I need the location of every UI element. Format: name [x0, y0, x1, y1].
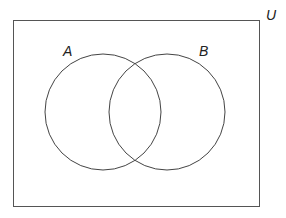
universe-rectangle [14, 21, 260, 207]
set-a-label: A [62, 43, 72, 59]
venn-diagram: A B U [0, 0, 286, 218]
set-b-circle [109, 54, 225, 170]
set-b-label: B [199, 43, 208, 59]
universe-label: U [266, 7, 277, 23]
set-a-circle [45, 54, 161, 170]
